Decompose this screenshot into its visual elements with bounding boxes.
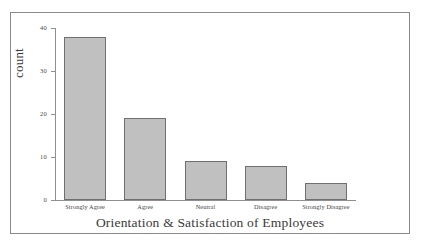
bar bbox=[64, 37, 106, 200]
x-axis-title: Orientation & Satisfaction of Employees bbox=[30, 215, 390, 231]
y-tick-label: 0 bbox=[17, 196, 47, 203]
bar bbox=[245, 166, 287, 200]
x-tick-label: Strongly Disagree bbox=[281, 203, 371, 210]
y-tick-label: 40 bbox=[17, 24, 47, 31]
bar bbox=[305, 183, 347, 200]
y-tick-label: 20 bbox=[17, 110, 47, 117]
y-axis-title: count bbox=[11, 23, 31, 103]
y-tick-mark bbox=[51, 200, 55, 201]
bar bbox=[185, 161, 227, 200]
bar bbox=[124, 118, 166, 200]
x-axis-line bbox=[55, 200, 356, 201]
plot-area bbox=[55, 28, 356, 200]
y-tick-label: 10 bbox=[17, 153, 47, 160]
y-tick-label: 30 bbox=[17, 67, 47, 74]
figure: count 010203040 Strongly AgreeAgreeNeutr… bbox=[0, 0, 421, 249]
